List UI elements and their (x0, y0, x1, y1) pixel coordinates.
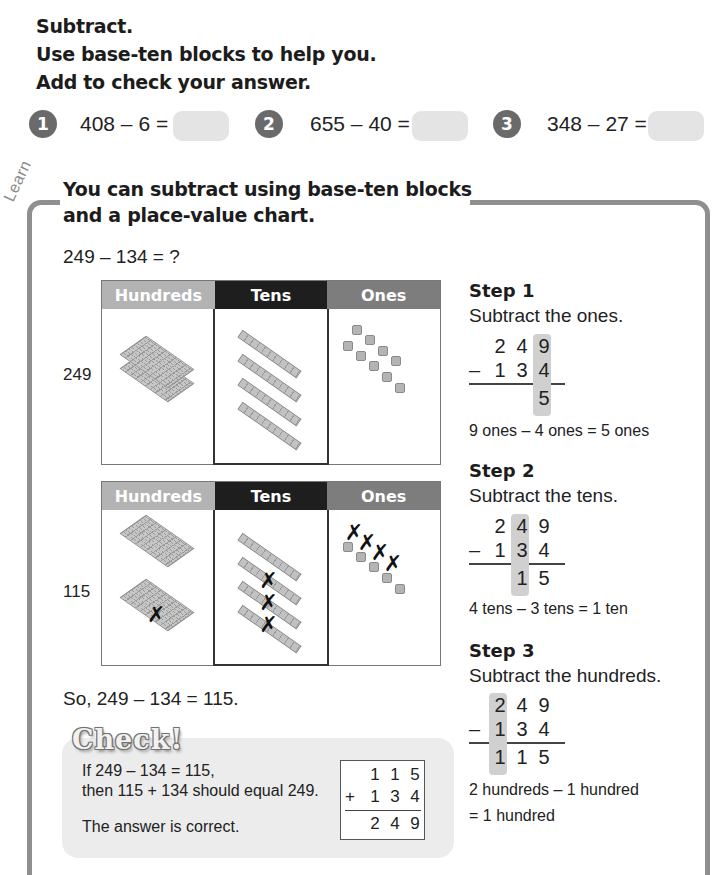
hundreds-column: ✗ (102, 510, 213, 666)
check-line-2: then 115 + 134 should equal 249. (82, 782, 319, 800)
cross-out-icon: ✗ (147, 604, 165, 626)
check-line-3: The answer is correct. (82, 818, 239, 836)
step-2-note: 4 tens – 3 tens = 1 ten (469, 596, 628, 622)
one-cube-icon (378, 346, 388, 356)
step-3-note-line1: 2 hundreds – 1 hundred (469, 777, 639, 803)
ten-rod-icon (238, 330, 302, 379)
tens-header: Tens (215, 281, 328, 309)
step-3-desc: Subtract the hundreds. (469, 665, 661, 687)
ten-rod-icon (238, 354, 302, 403)
ten-rod-icon (238, 402, 302, 451)
addend1-hundreds: 1 (365, 765, 385, 785)
learn-heading-line2: and a place-value chart. (63, 204, 315, 226)
ones-header: Ones (327, 482, 440, 510)
ten-rod-icon (238, 378, 302, 427)
instruction-use-blocks: Use base-ten blocks to help you. (36, 43, 376, 65)
step-1-desc: Subtract the ones. (469, 305, 623, 327)
step-2-algorithm: 249 –134 15 (469, 514, 565, 590)
question-3-answer-box[interactable] (648, 111, 704, 141)
question-2-answer-box[interactable] (412, 111, 468, 141)
cross-out-icon: ✗ (259, 570, 277, 592)
one-cube-icon (391, 356, 401, 366)
ones-column (329, 309, 440, 465)
step-1-algorithm: 249 –134 5 (469, 334, 565, 410)
sum-ones: 9 (405, 814, 425, 834)
hundreds-column (102, 309, 213, 465)
question-3-expression: 348 – 27 = (547, 112, 647, 136)
addend2-ones: 4 (405, 787, 425, 807)
addend2-hundreds: 1 (365, 787, 385, 807)
question-1-badge: 1 (29, 110, 57, 138)
tens-column (213, 309, 328, 465)
one-cube-icon (395, 383, 405, 393)
check-addition-box: 1 1 5 + 1 3 4 2 4 9 (340, 760, 425, 840)
chart-2-label: 115 (63, 582, 90, 602)
place-value-chart-115: Hundreds Tens Ones ✗ ✗ ✗ ✗ ✗ ✗ ✗ ✗ (101, 481, 441, 666)
one-cube-icon (365, 335, 375, 345)
problem-statement: 249 – 134 = ? (63, 246, 180, 268)
question-1-answer-box[interactable] (173, 111, 229, 141)
step-1-note: 9 ones – 4 ones = 5 ones (469, 418, 649, 444)
question-1-expression: 408 – 6 = (80, 112, 168, 136)
ones-column: ✗ ✗ ✗ ✗ (329, 510, 440, 666)
one-cube-icon (356, 351, 366, 361)
conclusion-text: So, 249 – 134 = 115. (63, 688, 239, 710)
instruction-subtract: Subtract. (36, 15, 133, 37)
one-cube-icon (343, 341, 353, 351)
check-title: Check! (72, 724, 183, 755)
step-3-algorithm: 249 –134 115 (469, 693, 565, 769)
cross-out-icon: ✗ (259, 614, 277, 636)
learn-heading-line1: You can subtract using base-ten blocks (63, 178, 472, 200)
question-2-expression: 655 – 40 = (310, 112, 410, 136)
place-value-chart-249: Hundreds Tens Ones (101, 280, 441, 465)
one-cube-icon (352, 325, 362, 335)
question-2-badge: 2 (255, 110, 283, 138)
ones-header: Ones (327, 281, 440, 309)
one-cube-icon (369, 361, 379, 371)
step-3-title: Step 3 (469, 640, 534, 661)
cross-out-icon: ✗ (259, 592, 277, 614)
hundreds-header: Hundreds (102, 281, 215, 309)
step-2-title: Step 2 (469, 460, 534, 481)
step-1-title: Step 1 (469, 280, 534, 301)
instruction-add-check: Add to check your answer. (36, 71, 311, 93)
addend1-ones: 5 (405, 765, 425, 785)
sum-tens: 4 (385, 814, 405, 834)
one-cube-icon (382, 372, 392, 382)
hundred-flat-icon (120, 515, 195, 567)
chart-1-label: 249 (63, 365, 91, 385)
tens-column: ✗ ✗ ✗ (213, 510, 328, 666)
step-3-note-line2: = 1 hundred (469, 803, 555, 829)
one-cube-icon (395, 584, 405, 594)
question-3-badge: 3 (493, 110, 521, 138)
cross-out-icon: ✗ (384, 553, 402, 575)
plus-sign: + (345, 787, 365, 807)
learn-tag: Learn (0, 158, 35, 205)
addend2-tens: 3 (385, 787, 405, 807)
addend1-tens: 1 (385, 765, 405, 785)
hundreds-header: Hundreds (102, 482, 215, 510)
sum-hundreds: 2 (365, 814, 385, 834)
check-line-1: If 249 – 134 = 115, (82, 762, 215, 780)
tens-header: Tens (215, 482, 328, 510)
step-2-desc: Subtract the tens. (469, 485, 618, 507)
